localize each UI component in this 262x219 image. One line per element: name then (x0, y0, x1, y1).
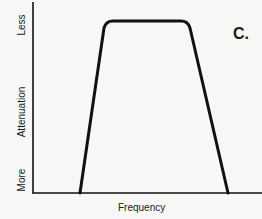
chart-figure: Less More Attenuation Frequency C. (0, 0, 262, 219)
plot-area (0, 0, 262, 219)
y-tick-label-more: More (16, 165, 28, 195)
y-axis-title: Attenuation (16, 79, 28, 145)
y-tick-label-less: Less (16, 12, 28, 38)
panel-label: C. (233, 25, 249, 43)
filter-response-curve (80, 21, 228, 193)
x-axis-title: Frequency (118, 202, 165, 214)
